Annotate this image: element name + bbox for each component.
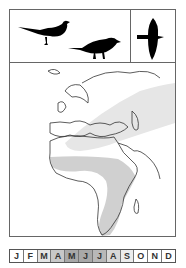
month-bar: J F M A M J J A S O N D [9,249,176,263]
month-cell: N [148,250,162,262]
month-cell: J [10,250,24,262]
month-cell: A [107,250,121,262]
month-cell: A [51,250,65,262]
month-cell: F [24,250,38,262]
month-cell: O [134,250,148,262]
month-cell: M [38,250,52,262]
flying-bird-icon [131,10,175,62]
breeding-range [65,83,175,151]
month-cell: S [121,250,135,262]
month-cell: J [93,250,107,262]
perched-bird-tail-up-icon [18,21,70,45]
month-cell: M [65,250,79,262]
month-cell: D [162,250,175,262]
month-cell: J [79,250,93,262]
wintering-range [50,156,136,236]
perched-bird-icon [68,38,121,59]
perched-birds [10,10,130,62]
map [10,63,175,236]
